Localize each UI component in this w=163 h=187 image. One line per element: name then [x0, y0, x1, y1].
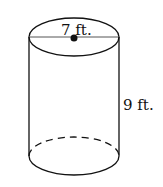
- bottom-ellipse-back: [29, 137, 119, 156]
- bottom-ellipse-front: [29, 156, 119, 175]
- height-label: 9 ft.: [123, 96, 154, 114]
- cylinder-diagram: 7 ft. 9 ft.: [0, 0, 163, 187]
- diameter-label: 7 ft.: [61, 21, 92, 39]
